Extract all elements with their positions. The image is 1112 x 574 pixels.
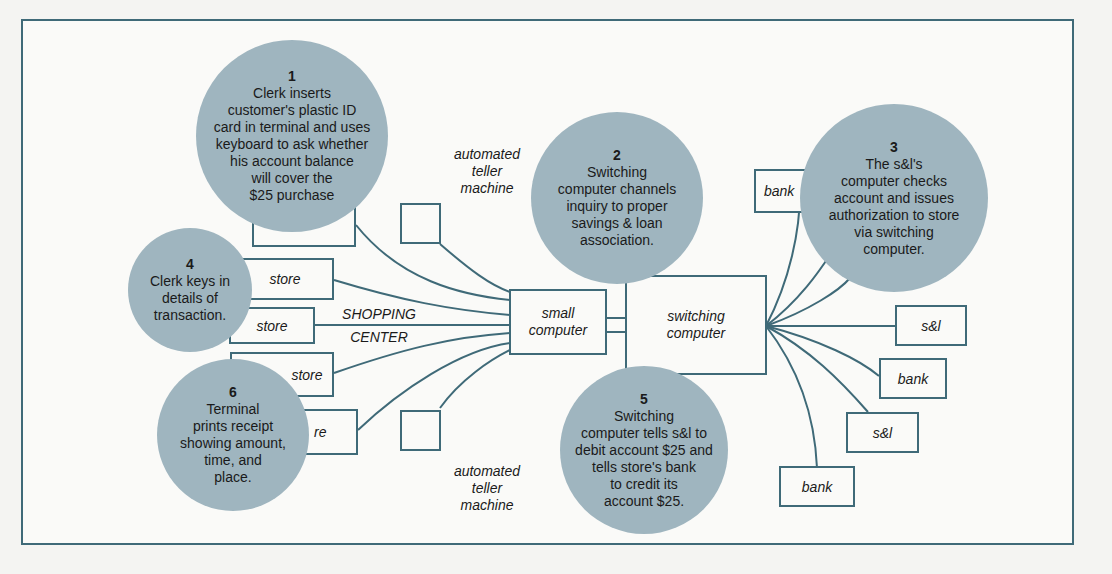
atm-label-top: automated teller machine	[432, 146, 542, 197]
bank-box-3: bank	[779, 466, 855, 507]
step-text: Switching computer channels inquiry to p…	[558, 164, 676, 249]
bank-label: bank	[898, 371, 928, 387]
switching-computer-label: switching computer	[667, 308, 725, 342]
step-text: Clerk inserts customer's plastic ID card…	[214, 85, 370, 204]
step-bubble-2: 2 Switching computer channels inquiry to…	[531, 112, 703, 284]
step-text: Switching computer tells s&l to debit ac…	[575, 408, 713, 510]
bank-label: bank	[802, 479, 832, 495]
step-number: 2	[613, 147, 621, 164]
step-number: 6	[229, 384, 237, 401]
step-bubble-1: 1 Clerk inserts customer's plastic ID ca…	[196, 40, 388, 232]
shopping-label: SHOPPING	[334, 306, 424, 323]
step-bubble-4: 4 Clerk keys in details of transaction.	[128, 228, 252, 352]
line-inst-sl-2	[766, 326, 868, 412]
step-number: 5	[640, 391, 648, 408]
line-atm-bottom	[440, 350, 510, 408]
center-label: CENTER	[344, 329, 414, 346]
atm-box-top	[400, 203, 441, 244]
store-label: store	[269, 271, 300, 287]
line-inst-bank-3	[766, 326, 817, 468]
sl-label: s&l	[921, 318, 940, 334]
store-label: store	[256, 318, 287, 334]
sl-label: s&l	[873, 425, 892, 441]
atm-label-bottom: automated teller machine	[432, 463, 542, 514]
line-inst-c1	[766, 255, 830, 326]
step-number: 4	[186, 256, 194, 273]
line-atm-top	[440, 244, 510, 292]
step-text: The s&l's computer checks account and is…	[829, 156, 960, 258]
sl-box-1: s&l	[895, 305, 967, 346]
step-number: 3	[890, 139, 898, 156]
store-label: store	[291, 367, 322, 383]
sl-box-2: s&l	[846, 412, 919, 453]
small-computer-label: small computer	[529, 305, 587, 339]
step-text: Terminal prints receipt showing amount, …	[180, 401, 286, 486]
store-label: re	[314, 424, 326, 440]
step-bubble-5: 5 Switching computer tells s&l to debit …	[560, 366, 728, 534]
small-computer-box: small computer	[509, 289, 607, 355]
step-text: Clerk keys in details of transaction.	[150, 273, 230, 324]
step-number: 1	[288, 68, 296, 85]
step-bubble-6: 6 Terminal prints receipt showing amount…	[157, 359, 309, 511]
atm-box-bottom	[400, 410, 441, 451]
bank-label: bank	[764, 183, 794, 199]
switching-computer-box: switching computer	[625, 275, 767, 375]
step-bubble-3: 3 The s&l's computer checks account and …	[800, 104, 988, 292]
bank-box-2: bank	[879, 358, 947, 399]
